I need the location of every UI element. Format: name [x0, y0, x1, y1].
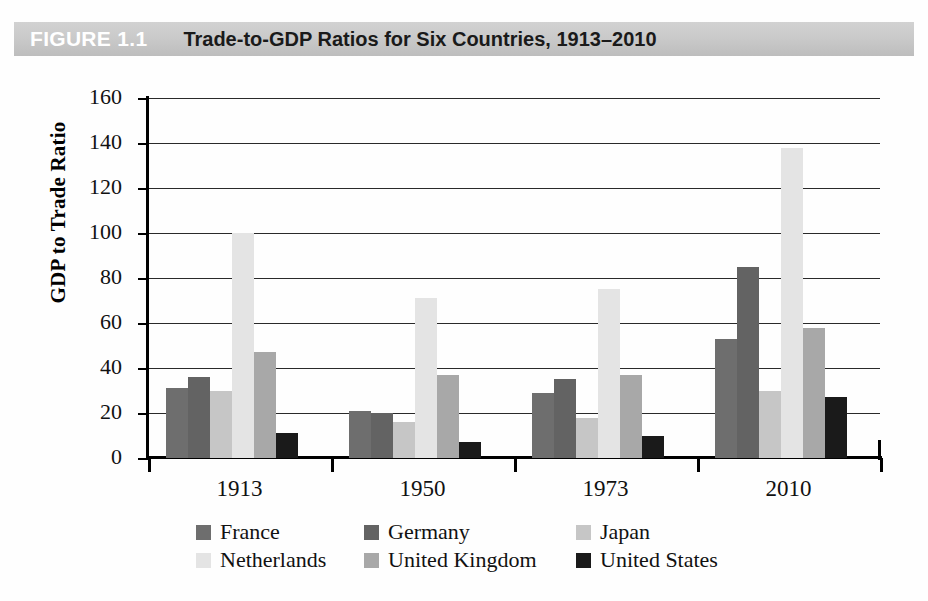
x-tick-label-1973: 1973 — [536, 476, 676, 502]
figure-root: FIGURE 1.1 Trade-to-GDP Ratios for Six C… — [0, 0, 928, 601]
bar-france-2010 — [715, 339, 737, 458]
y-tick-label: 100 — [62, 221, 122, 243]
legend-item-united-kingdom[interactable]: United Kingdom — [364, 549, 576, 571]
legend-swatch-icon — [576, 553, 591, 568]
bar-netherlands-1913 — [232, 233, 254, 458]
legend-item-germany[interactable]: Germany — [364, 521, 576, 543]
y-axis-title: GDP to Trade Ratio — [46, 93, 71, 333]
legend-item-netherlands[interactable]: Netherlands — [196, 549, 364, 571]
bar-japan-1913 — [210, 391, 232, 459]
y-tick-label: 80 — [62, 266, 122, 288]
bar-japan-1973 — [576, 418, 598, 459]
legend-item-united-states[interactable]: United States — [576, 549, 816, 571]
x-tick-label-1950: 1950 — [353, 476, 493, 502]
bar-germany-1913 — [188, 377, 210, 458]
legend-swatch-icon — [364, 553, 379, 568]
legend-swatch-icon — [196, 553, 211, 568]
bar-netherlands-1950 — [415, 298, 437, 458]
legend-swatch-icon — [364, 525, 379, 540]
bar-united-kingdom-1973 — [620, 375, 642, 458]
x-tick-mark — [880, 458, 883, 472]
y-tick-label: 20 — [62, 401, 122, 423]
bar-france-1973 — [532, 393, 554, 458]
x-tick-label-1913: 1913 — [170, 476, 310, 502]
y-tick-label: 140 — [62, 131, 122, 153]
chart-container: GDP to Trade Ratio 020406080100120140160… — [0, 0, 928, 601]
x-tick-mark — [697, 458, 700, 472]
bar-united-states-1913 — [276, 433, 298, 458]
legend-label: Netherlands — [220, 549, 326, 571]
bar-united-kingdom-1913 — [254, 352, 276, 458]
legend-label: United States — [600, 549, 718, 571]
bar-germany-1950 — [371, 413, 393, 458]
legend-label: United Kingdom — [388, 549, 537, 571]
bar-france-1913 — [166, 388, 188, 458]
bar-united-kingdom-1950 — [437, 375, 459, 458]
legend-item-france[interactable]: France — [196, 521, 364, 543]
legend-swatch-icon — [576, 525, 591, 540]
y-tick-label: 0 — [62, 446, 122, 468]
chart-legend: FranceGermanyJapanNetherlandsUnited King… — [196, 521, 816, 571]
bar-japan-1950 — [393, 422, 415, 458]
bar-france-1950 — [349, 411, 371, 458]
legend-swatch-icon — [196, 525, 211, 540]
y-tick-label: 160 — [62, 86, 122, 108]
legend-item-japan[interactable]: Japan — [576, 521, 816, 543]
bar-united-states-1973 — [642, 436, 664, 459]
x-tick-mark — [514, 458, 517, 472]
bar-germany-2010 — [737, 267, 759, 458]
legend-label: Germany — [388, 521, 470, 543]
y-tick-label: 60 — [62, 311, 122, 333]
y-tick-label: 120 — [62, 176, 122, 198]
bars-layer — [148, 98, 880, 458]
bar-united-states-1950 — [459, 442, 481, 458]
x-tick-mark — [331, 458, 334, 472]
bar-netherlands-2010 — [781, 148, 803, 459]
x-tick-label-2010: 2010 — [719, 476, 859, 502]
bar-united-states-2010 — [825, 397, 847, 458]
bar-united-kingdom-2010 — [803, 328, 825, 459]
y-tick-label: 40 — [62, 356, 122, 378]
legend-label: Japan — [600, 521, 650, 543]
x-tick-mark — [148, 458, 151, 472]
bar-netherlands-1973 — [598, 289, 620, 458]
legend-label: France — [220, 521, 280, 543]
bar-germany-1973 — [554, 379, 576, 458]
bar-japan-2010 — [759, 391, 781, 459]
